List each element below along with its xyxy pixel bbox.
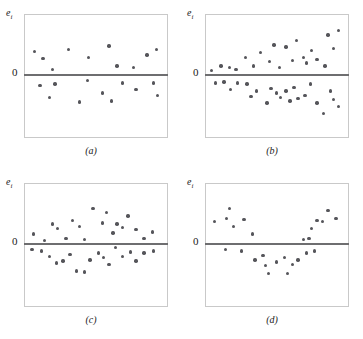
data-point — [264, 264, 267, 267]
data-point — [268, 60, 271, 63]
data-point — [302, 56, 305, 59]
data-point — [334, 217, 337, 220]
data-point — [284, 89, 287, 92]
data-point — [236, 81, 239, 84]
data-point — [61, 259, 64, 262]
data-point — [156, 94, 159, 97]
data-point — [245, 82, 248, 85]
panel-d: ei 0 (d) — [181, 169, 363, 339]
data-point — [283, 256, 286, 259]
data-point — [253, 258, 256, 261]
data-point — [315, 58, 318, 61]
data-point — [296, 97, 299, 100]
data-point — [286, 272, 289, 275]
data-point — [115, 64, 118, 67]
data-point — [48, 255, 51, 258]
data-point — [87, 56, 90, 59]
data-point — [110, 99, 113, 102]
scatter-points-b — [205, 14, 349, 138]
data-point — [267, 272, 270, 275]
data-point — [272, 43, 275, 46]
data-point — [107, 263, 110, 266]
data-point — [279, 96, 282, 99]
data-point — [255, 89, 258, 92]
scatter-points-c — [24, 183, 168, 307]
data-point — [68, 253, 71, 256]
data-point — [105, 211, 108, 214]
data-point — [129, 250, 132, 253]
data-point — [134, 259, 137, 262]
data-point — [232, 225, 235, 228]
data-point — [152, 81, 155, 84]
data-point — [121, 81, 124, 84]
data-point — [55, 261, 58, 264]
data-point — [83, 238, 86, 241]
data-point — [234, 68, 237, 71]
data-point — [210, 69, 213, 72]
data-point — [78, 100, 81, 103]
data-point — [275, 260, 278, 263]
caption-d: (d) — [181, 314, 363, 325]
zero-label-c: 0 — [12, 236, 18, 247]
data-point — [101, 221, 104, 224]
data-point — [310, 49, 313, 52]
data-point — [78, 225, 81, 228]
data-point — [101, 91, 104, 94]
data-point — [51, 68, 54, 71]
data-point — [315, 219, 318, 222]
data-point — [111, 231, 114, 234]
data-point — [291, 59, 294, 62]
data-point — [307, 237, 310, 240]
data-point — [91, 207, 94, 210]
data-point — [126, 214, 129, 217]
data-point — [242, 218, 245, 221]
data-point — [288, 99, 291, 102]
data-point — [244, 56, 247, 59]
data-point — [261, 254, 264, 257]
data-point — [30, 248, 33, 251]
scatter-points-a — [24, 14, 168, 138]
data-point — [134, 228, 137, 231]
data-point — [310, 227, 313, 230]
data-point — [53, 82, 56, 85]
zero-label-a: 0 — [12, 67, 18, 78]
data-point — [305, 61, 308, 64]
data-point — [114, 246, 117, 249]
data-point — [107, 44, 110, 47]
data-point — [284, 45, 287, 48]
data-point — [32, 232, 35, 235]
data-point — [43, 239, 46, 242]
data-point — [326, 33, 329, 36]
data-point — [134, 88, 137, 91]
caption-c: (c) — [0, 314, 182, 325]
data-point — [75, 269, 78, 272]
data-point — [322, 112, 325, 115]
data-point — [295, 39, 298, 42]
data-point — [275, 91, 278, 94]
data-point — [71, 219, 74, 222]
data-point — [224, 248, 227, 251]
data-point — [102, 256, 105, 259]
data-point — [309, 82, 312, 85]
data-point — [303, 94, 306, 97]
data-point — [56, 227, 59, 230]
data-point — [259, 51, 262, 54]
data-point — [86, 79, 89, 82]
data-point — [323, 64, 326, 67]
data-point — [252, 64, 255, 67]
data-point — [228, 207, 231, 210]
data-point — [64, 237, 67, 240]
data-point — [302, 238, 305, 241]
data-point — [155, 48, 158, 51]
data-point — [292, 86, 295, 89]
data-point — [38, 84, 41, 87]
data-point — [240, 249, 243, 252]
data-point — [213, 220, 216, 223]
data-point — [332, 47, 335, 50]
y-axis-label-d: ei — [187, 177, 193, 190]
data-point — [121, 255, 124, 258]
data-point — [115, 222, 118, 225]
y-axis-label-c: ei — [6, 177, 12, 190]
data-point — [329, 89, 332, 92]
data-point — [142, 237, 145, 240]
